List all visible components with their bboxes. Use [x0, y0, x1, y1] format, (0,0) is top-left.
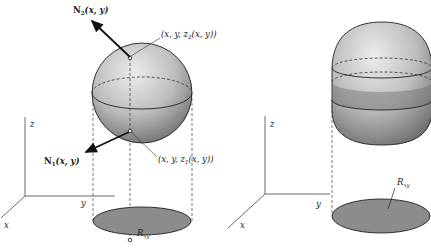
y-axis-label: y	[80, 198, 86, 208]
figure-canvas: z y x Rxy N2(x, y) (x, y, z2(x, y)) N1(x…	[0, 0, 431, 252]
normal-n1-label: N1(x, y)	[44, 156, 80, 167]
region-point	[128, 238, 132, 242]
x-axis-label: x	[240, 220, 245, 230]
normal-n2-label: N2(x, y)	[73, 5, 109, 16]
left-axes	[1, 117, 115, 218]
y-axis-label: y	[315, 199, 321, 209]
region-label: Rxy	[396, 177, 411, 189]
point-top-label: (x, y, z2(x, y))	[161, 29, 217, 40]
region-rxy	[332, 199, 430, 233]
elongated-solid	[332, 22, 431, 145]
x-axis	[1, 196, 25, 218]
point-bottom-label: (x, y, z1(x, y))	[158, 154, 214, 165]
x-axis	[228, 194, 265, 228]
left-panel: z y x Rxy N2(x, y) (x, y, z2(x, y)) N1(x…	[1, 5, 217, 242]
normal-n1-arrow	[86, 132, 129, 152]
normal-n2-arrow	[92, 21, 130, 57]
sphere	[92, 43, 192, 143]
right-panel: z y x Rxy	[228, 22, 431, 233]
right-axes	[228, 116, 330, 228]
z-axis-label: z	[29, 119, 35, 129]
x-axis-label: x	[4, 220, 9, 230]
z-axis-label: z	[269, 119, 275, 129]
